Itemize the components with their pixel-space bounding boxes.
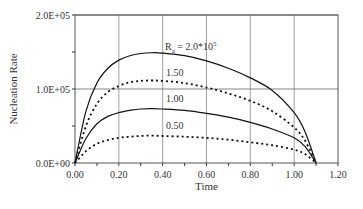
x-tick-label: 0.60 <box>198 169 216 180</box>
x-tick-label: 0.00 <box>66 169 84 180</box>
annotation-1.00: 1.00 <box>166 93 184 104</box>
x-axis-label: Time <box>195 180 218 192</box>
series-line-1 <box>75 80 316 163</box>
annotation-0.50: 0.50 <box>166 120 184 131</box>
series-line-3 <box>75 136 316 163</box>
annotation-1.50: 1.50 <box>166 67 184 78</box>
y-tick-label: 0.0E+00 <box>36 158 70 169</box>
annotation-ra: Ra = 2.0*105 <box>165 40 217 55</box>
y-axis-label: Nucleation Rate <box>7 53 19 124</box>
x-tick-label: 0.20 <box>110 169 128 180</box>
nucleation-rate-chart: 0.000.200.400.600.801.001.200.0E+001.0E+… <box>0 0 363 209</box>
x-tick-label: 1.20 <box>329 169 347 180</box>
y-tick-label: 2.0E+05 <box>36 10 70 21</box>
x-tick-label: 1.00 <box>285 169 303 180</box>
y-tick-label: 1.0E+05 <box>36 84 70 95</box>
chart-svg: 0.000.200.400.600.801.001.200.0E+001.0E+… <box>0 0 363 209</box>
x-tick-label: 0.40 <box>154 169 172 180</box>
series-line-0 <box>75 53 316 163</box>
x-tick-label: 0.80 <box>242 169 260 180</box>
